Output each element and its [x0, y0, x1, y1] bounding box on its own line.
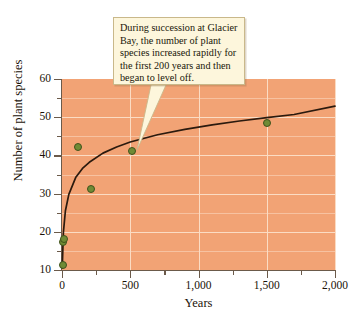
- callout-line-3: the first 200 years and then: [120, 60, 239, 73]
- callout-line-4: began to level off.: [120, 72, 239, 85]
- callout-pointer-icon: [137, 85, 166, 150]
- callout-line-2: species increased rapidly for: [120, 47, 239, 60]
- callout-line-1: Bay, the number of plant: [120, 35, 239, 48]
- callout-line-0: During succession at Glacier: [120, 22, 239, 35]
- figure: 10203040506005001,0001,5002,000 Number o…: [0, 0, 359, 319]
- succession-callout-box: During succession at Glacier Bay, the nu…: [113, 17, 245, 85]
